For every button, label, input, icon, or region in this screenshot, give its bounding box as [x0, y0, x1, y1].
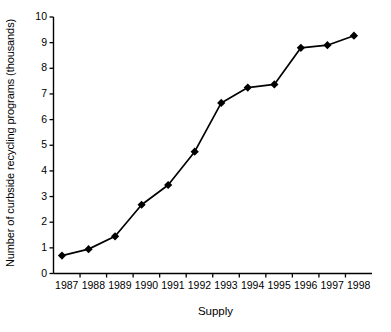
data-point-markers: [58, 32, 358, 260]
data-point-marker: [217, 99, 225, 107]
x-axis-title: Supply: [53, 305, 378, 317]
axis-lines: [54, 17, 373, 274]
line-chart: Number of curbside recycling programs (t…: [0, 0, 391, 332]
data-point-marker: [323, 41, 331, 49]
plot-area: [0, 0, 391, 332]
data-point-marker: [244, 83, 252, 91]
data-point-marker: [58, 251, 66, 259]
data-point-marker: [350, 32, 358, 40]
data-point-marker: [84, 245, 92, 253]
data-series-line: [62, 36, 354, 256]
